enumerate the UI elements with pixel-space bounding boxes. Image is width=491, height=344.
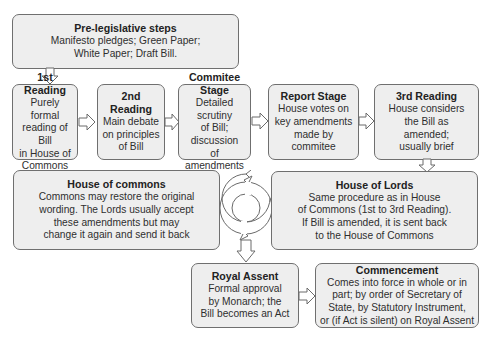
arrow-right-icon — [252, 112, 269, 130]
node-body: Formal approval by Monarch; the Bill bec… — [201, 283, 290, 321]
node-house-of-lords: House of Lords Same procedure as in Hous… — [271, 171, 478, 250]
node-title: Commitee Stage — [182, 71, 247, 97]
node-body: Purely formal reading of Bill in House o… — [16, 97, 74, 173]
node-body: Commons may restore the original wording… — [39, 191, 195, 241]
arrow-down-icon — [236, 240, 256, 263]
node-body: Detailed scrutiny of Bill; discussion of… — [182, 97, 247, 173]
node-body: House considers the Bill as amended; usu… — [389, 103, 465, 153]
node-title: House of Lords — [336, 179, 414, 192]
cycle-arrows-icon — [218, 170, 274, 250]
node-body: Comes into force in whole or in part; by… — [320, 277, 474, 327]
node-body: Main debate on principles of Bill — [102, 116, 159, 154]
node-body: Same procedure as in House of Commons (1… — [298, 192, 451, 242]
node-title: Report Stage — [281, 90, 347, 103]
node-body: Manifesto pledges; Green Paper; White Pa… — [51, 35, 201, 60]
node-body: House votes on key amendments made by co… — [272, 103, 355, 153]
node-commencement: Commencement Comes into force in whole o… — [315, 263, 479, 328]
node-title: House of commons — [67, 178, 165, 191]
node-report-stage: Report Stage House votes on key amendmen… — [268, 84, 359, 160]
node-title: Royal Assent — [212, 270, 279, 283]
node-title: Pre-legislative steps — [74, 22, 176, 35]
node-title: 3rd Reading — [396, 90, 457, 103]
node-3rd-reading: 3rd Reading House considers the Bill as … — [374, 84, 479, 160]
arrow-right-icon — [359, 112, 375, 130]
node-pre-legislative-steps: Pre-legislative steps Manifesto pledges;… — [12, 14, 239, 69]
node-royal-assent: Royal Assent Formal approval by Monarch;… — [191, 263, 299, 328]
node-house-of-commons: House of commons Commons may restore the… — [13, 170, 220, 250]
node-title: Commencement — [356, 264, 438, 277]
arrow-right-icon — [299, 287, 316, 305]
node-title: 1st Reading — [16, 71, 74, 97]
node-committee-stage: Commitee Stage Detailed scrutiny of Bill… — [178, 84, 251, 160]
node-1st-reading: 1st Reading Purely formal reading of Bil… — [12, 84, 78, 160]
node-title: 2nd Reading — [101, 90, 161, 116]
arrow-right-icon — [79, 113, 97, 131]
node-2nd-reading: 2nd Reading Main debate on principles of… — [97, 84, 165, 160]
